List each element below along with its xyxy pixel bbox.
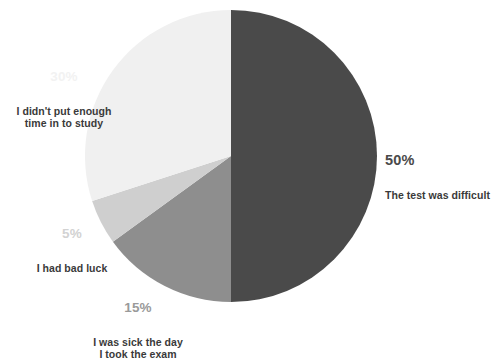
pie-label-test-difficult: 50% The test was difficult [385, 133, 490, 220]
pie-category-test-difficult: The test was difficult [385, 189, 490, 201]
pie-slice-test-difficult[interactable] [231, 10, 377, 302]
pie-category-bad-luck: I had bad luck [16, 262, 128, 274]
pie-slice-group [85, 10, 377, 302]
pie-value-sick-on-exam-day: 15% [74, 300, 202, 316]
pie-value-not-enough-study-time: 30% [3, 69, 125, 85]
pie-category-not-enough-study-time: I didn't put enough time in to study [3, 105, 125, 130]
pie-label-sick-on-exam-day: 15% I was sick the day I took the exam [74, 281, 202, 362]
pie-category-sick-on-exam-day: I was sick the day I took the exam [74, 336, 202, 361]
pie-value-bad-luck: 5% [16, 226, 128, 242]
pie-value-test-difficult: 50% [385, 152, 490, 169]
pie-label-not-enough-study-time: 30% I didn't put enough time in to study [3, 50, 125, 148]
